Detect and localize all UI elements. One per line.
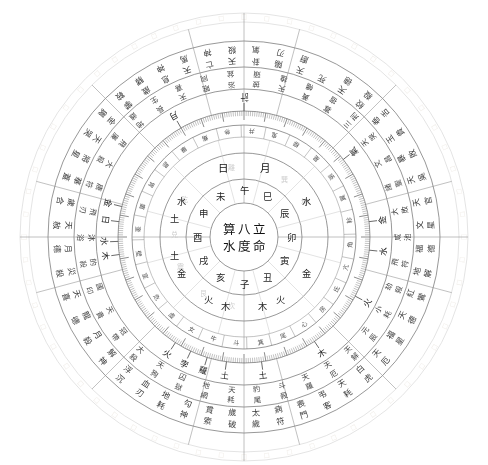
degree-tick [122,268,127,269]
degree-tick [343,165,347,168]
planet-marker-tick [369,221,377,222]
watermark-glyph: 囗 [194,448,202,457]
degree-tick [126,192,131,194]
degree-tick [355,186,360,188]
outer-shensha-glyph: 勾 [182,398,193,410]
center-glyph: 八 [238,222,251,237]
lunar-mansion-glyph: 斗 [233,339,239,346]
degree-tick [308,340,311,344]
degree-tick [136,299,140,302]
degree-tick [348,299,352,302]
degree-tick [362,262,367,263]
mid-shensha-glyph: 披 [252,80,261,90]
lunar-mansion-glyph: 井 [248,127,255,135]
watermark-glyph: 囗 [440,143,450,152]
degree-tick [351,178,355,180]
degree-tick [301,126,303,130]
mansion-boundary-tick [308,314,316,323]
degree-tick [313,134,316,138]
degree-tick [155,148,159,152]
degree-tick [137,301,141,304]
degree-tick [325,143,328,147]
degree-tick [155,323,159,327]
degree-tick [364,254,369,255]
mid-shensha-glyph: 敗 [400,205,410,214]
degree-tick [229,357,230,362]
outer-shensha-glyph: 門 [299,409,310,421]
watermark-glyph: 囗 [49,122,59,131]
degree-tick [359,274,364,276]
degree-tick [353,182,357,184]
degree-tick [179,129,182,133]
watermark-glyph: 囗 [49,342,59,351]
watermark-glyph: 囗 [24,187,33,195]
degree-tick [283,118,285,123]
watermark-glyph: 囗 [286,17,294,26]
degree-tick [156,146,159,150]
mid-shensha-glyph: 的 [88,258,98,266]
degree-tick-major [264,113,266,122]
watermark-glyph: 囗 [110,410,120,420]
planet-marker-tick [111,221,119,222]
watermark-glyph: 囗 [264,452,271,461]
center-disc-edge [210,203,278,271]
degree-tick [141,165,145,168]
five-element-glyph: 土 [170,250,179,261]
earthly-branch-glyph: 未 [216,191,226,202]
degree-tick [179,341,182,345]
outer-shensha-glyph: 沉 [114,372,127,385]
degree-tick [187,345,189,349]
degree-tick [205,117,207,122]
five-element-glyph: 水 [302,196,311,207]
degree-tick [275,354,276,359]
outer-shensha-glyph: 吳 [416,171,428,182]
outer-shensha-glyph: 歲 [252,419,261,430]
degree-tick-major [222,113,224,122]
outer-shensha-glyph: 歲 [228,407,237,418]
degree-tick [168,334,171,338]
center-glyph: 算 [223,222,236,237]
degree-tick [263,113,264,118]
degree-tick [334,153,338,156]
degree-tick [335,154,339,157]
degree-tick [138,303,142,306]
degree-tick [289,349,291,354]
degree-tick [209,116,210,121]
degree-tick [168,136,171,140]
degree-tick-major [319,140,325,147]
outer-shensha-glyph: 廚 [299,53,310,65]
degree-tick [175,338,178,342]
outer-shensha-glyph: 輿 [97,107,110,120]
mansion-boundary-tick [142,191,153,196]
mid-shensha-glyph: 豹 [253,385,261,395]
outer-shensha-glyph: 太 [251,407,260,418]
degree-tick [133,294,137,296]
degree-tick [259,112,260,117]
outer-shensha-glyph: 刃 [134,387,146,400]
outer-shensha-glyph: 官 [422,196,433,206]
degree-tick [122,207,127,208]
planet-marker-glyph: 土 [219,369,229,381]
degree-tick [174,337,177,341]
degree-tick [352,180,356,182]
degree-tick [289,120,291,125]
degree-tick [273,354,274,359]
degree-tick [119,254,124,255]
degree-tick [364,224,369,225]
degree-tick [123,270,128,271]
degree-tick [127,282,132,284]
degree-tick [295,123,297,128]
earthly-branch-glyph: 午 [240,185,249,196]
mid-shensha-glyph: 尾 [254,395,262,405]
mid-shensha-glyph: 宿 [328,94,339,105]
degree-tick [214,115,215,120]
degree-tick [160,327,163,331]
degree-tick [361,207,366,208]
mid-shensha-glyph: 耗 [382,309,394,320]
outer-shensha-glyph: 德 [52,245,63,254]
degree-tick [172,336,175,340]
degree-tick [257,357,258,362]
degree-tick [158,325,161,329]
mid-shensha-glyph: 盆 [226,69,235,79]
degree-tick [156,324,159,328]
